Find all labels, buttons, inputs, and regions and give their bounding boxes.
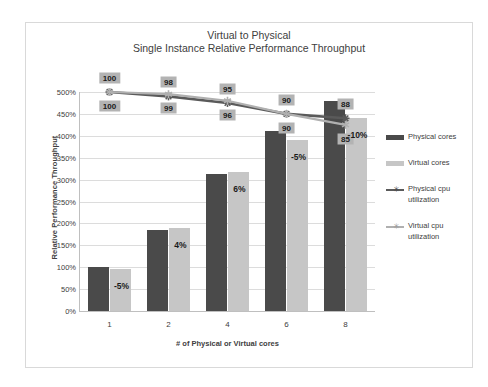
legend-marker-icon: ✳ xyxy=(393,223,400,230)
delta-annotation-2: 4% xyxy=(174,240,186,250)
legend-label: Physical cores xyxy=(408,131,456,142)
legend-bar-swatch xyxy=(386,161,404,166)
legend-line-swatch: ✳ xyxy=(386,187,404,192)
x-axis-tick-label: 4 xyxy=(225,320,229,329)
legend-item-virtual-cpu-utilization[interactable]: ✳Virtual cpu utilization xyxy=(386,220,472,242)
y-axis-tick-label: 50% xyxy=(61,285,76,294)
y-axis-tick-label: 350% xyxy=(57,153,76,162)
legend-label: Virtual cpu utilization xyxy=(408,220,472,242)
point-label-virtual-cpu-4: 96 xyxy=(219,109,236,120)
chart-title: Virtual to Physical Single Instance Rela… xyxy=(26,29,472,55)
y-axis-tick-label: 300% xyxy=(57,175,76,184)
y-axis-tick-label: 200% xyxy=(57,219,76,228)
delta-annotation-4: 6% xyxy=(233,184,245,194)
delta-annotation-1: -5% xyxy=(114,281,129,291)
line-series-layer xyxy=(80,92,375,311)
plot-area: 0%50%100%150%200%250%300%350%400%450%500… xyxy=(79,92,375,312)
point-label-virtual-cpu-1: 100 xyxy=(99,101,120,112)
point-label-physical-cpu-8: 88 xyxy=(337,99,354,110)
legend-marker-icon: ✳ xyxy=(393,186,400,193)
delta-annotation-6: -5% xyxy=(291,152,306,162)
legend-bar-swatch xyxy=(386,135,404,140)
x-axis-tick-label: 1 xyxy=(107,320,111,329)
point-label-virtual-cpu-6: 90 xyxy=(278,122,295,133)
legend-item-physical-cores[interactable]: Physical cores xyxy=(386,131,472,142)
chart-title-line2: Single Instance Relative Performance Thr… xyxy=(26,42,472,55)
point-label-physical-cpu-2: 98 xyxy=(160,77,177,88)
point-label-physical-cpu-6: 90 xyxy=(278,94,295,105)
y-axis-tick-label: 500% xyxy=(57,88,76,97)
x-axis-tick-label: 2 xyxy=(166,320,170,329)
y-axis-tick-label: 100% xyxy=(57,263,76,272)
legend-item-physical-cpu-utilization[interactable]: ✳Physical cpu utilization xyxy=(386,183,472,205)
point-label-physical-cpu-4: 95 xyxy=(219,83,236,94)
point-label-virtual-cpu-2: 99 xyxy=(160,103,177,114)
delta-annotation-8: -10% xyxy=(348,130,368,140)
legend-label: Virtual cores xyxy=(408,157,450,168)
x-axis-title: # of Physical or Virtual cores xyxy=(80,339,375,348)
y-axis-tick-label: 450% xyxy=(57,109,76,118)
chart-legend: Physical coresVirtual cores✳Physical cpu… xyxy=(386,131,472,257)
chart-container: Virtual to Physical Single Instance Rela… xyxy=(25,22,473,368)
y-axis-tick-label: 400% xyxy=(57,131,76,140)
y-axis-tick-label: 150% xyxy=(57,241,76,250)
legend-label: Physical cpu utilization xyxy=(408,183,472,205)
legend-line-swatch: ✳ xyxy=(386,224,404,229)
x-axis-tick-label: 6 xyxy=(284,320,288,329)
chart-title-line1: Virtual to Physical xyxy=(207,29,290,41)
point-label-physical-cpu-1: 100 xyxy=(99,73,120,84)
y-axis-tick-label: 250% xyxy=(57,197,76,206)
y-axis-tick-label: 0% xyxy=(65,307,76,316)
legend-item-virtual-cores[interactable]: Virtual cores xyxy=(386,157,472,168)
x-axis-tick-label: 8 xyxy=(343,320,347,329)
